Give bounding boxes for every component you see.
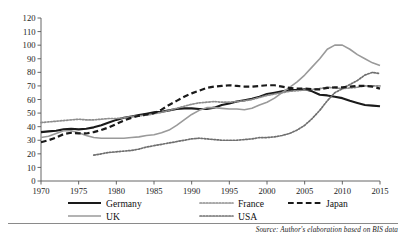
y-tick-label: 30 bbox=[27, 135, 36, 145]
chart-legend: GermanyFranceJapanUKUSA bbox=[0, 194, 406, 224]
y-tick-label: 110 bbox=[23, 27, 36, 37]
legend-label-france: France bbox=[238, 198, 264, 209]
source-note: Source: Author's elaboration based on BI… bbox=[8, 226, 398, 234]
legend-label-uk: UK bbox=[106, 211, 120, 222]
y-tick-label: 80 bbox=[27, 67, 36, 77]
y-axis: 0102030405060708090100110120 bbox=[23, 13, 41, 186]
series-line-france bbox=[41, 86, 380, 123]
y-tick-label: 60 bbox=[27, 95, 36, 105]
series-line-japan bbox=[41, 85, 380, 142]
chart-figure: 0102030405060708090100110120 19701975198… bbox=[0, 0, 406, 241]
series-line-uk bbox=[41, 45, 380, 138]
legend-label-germany: Germany bbox=[106, 198, 142, 209]
legend-label-usa: USA bbox=[238, 211, 257, 222]
y-tick-label: 20 bbox=[27, 149, 36, 159]
legend-svg: GermanyFranceJapanUKUSA bbox=[0, 194, 406, 224]
legend-label-japan: Japan bbox=[326, 198, 348, 209]
y-tick-label: 90 bbox=[27, 54, 36, 64]
data-series-group bbox=[41, 45, 380, 155]
y-tick-label: 100 bbox=[23, 40, 36, 50]
source-divider bbox=[8, 223, 398, 224]
plot-area: 0102030405060708090100110120 19701975198… bbox=[0, 0, 406, 195]
y-tick-label: 70 bbox=[27, 81, 36, 91]
series-line-germany bbox=[41, 89, 380, 132]
x-axis: 1970197519801985199019952000200520102015 bbox=[32, 181, 388, 195]
y-tick-label: 40 bbox=[27, 122, 36, 132]
y-tick-label: 50 bbox=[27, 108, 36, 118]
line-chart-svg: 0102030405060708090100110120 19701975198… bbox=[0, 0, 406, 195]
series-line-usa bbox=[94, 72, 380, 155]
y-tick-label: 10 bbox=[27, 163, 36, 173]
y-tick-label: 120 bbox=[23, 13, 36, 23]
